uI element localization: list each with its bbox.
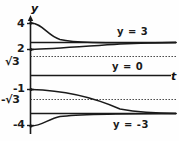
plot-canvas: [0, 0, 179, 141]
initial-point-4: [29, 21, 32, 24]
initial-point-minus-1: [29, 88, 32, 91]
y-tick-label-2: 2: [17, 43, 24, 54]
y-tick-label-4: 4: [17, 18, 24, 29]
solution-curve-from-2: [31, 43, 176, 50]
annotation-y-equals-minus-3: y = -3: [113, 120, 149, 130]
annotation-y-equals-0: y = 0: [112, 62, 143, 72]
t-axis-label: t: [171, 71, 176, 82]
y-tick-label-minus-sqrt3: -√3: [1, 94, 20, 105]
y-tick-label-sqrt3: √3: [5, 56, 19, 67]
y-tick-label-minus-4: -4: [13, 119, 25, 130]
solution-curve-from-4: [31, 23, 176, 43]
annotation-y-equals-3: y = 3: [117, 27, 148, 37]
solution-curve-from-minus-1: [31, 90, 176, 114]
y-axis-label: y: [31, 3, 38, 14]
phase-plane-figure: y t 4 2 √3 -1 -√3 -4 y = 3 y = 0 y = -3: [0, 0, 179, 141]
initial-point-2: [29, 48, 32, 51]
initial-point-minus-4: [29, 124, 32, 127]
solution-curve-from-minus-4: [31, 113, 176, 126]
y-axis-arrow: [28, 15, 33, 21]
